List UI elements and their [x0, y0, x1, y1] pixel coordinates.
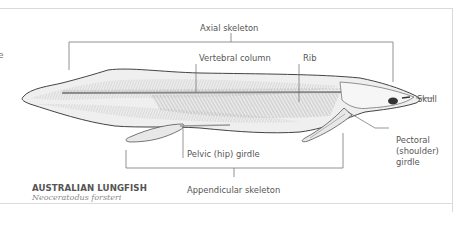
label-vertebral-column: Vertebral column	[199, 53, 271, 63]
label-appendicular-skeleton: Appendicular skeleton	[187, 185, 280, 195]
label-pectoral-line2: (shoulder)	[396, 146, 439, 156]
label-axial-skeleton: Axial skeleton	[200, 23, 258, 33]
diagram-subtitle: Neoceratodus forsteri	[32, 193, 121, 202]
eye-icon	[388, 98, 398, 105]
label-pectoral-line1: Pectoral	[396, 135, 430, 145]
label-pectoral-line3: girdle	[396, 157, 420, 167]
diagram-title: AUSTRALIAN LUNGFISH	[32, 183, 147, 193]
fish-body	[22, 69, 419, 142]
label-skull: Skull	[417, 94, 437, 104]
label-rib: Rib	[303, 53, 316, 63]
label-pelvic-girdle: Pelvic (hip) girdle	[187, 149, 260, 159]
